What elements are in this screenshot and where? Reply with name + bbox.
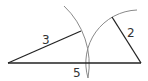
label-3: 3 [42, 33, 50, 47]
triangle-diagram: 3 2 5 [0, 0, 148, 81]
label-2: 2 [127, 26, 135, 40]
segment-2 [112, 17, 141, 63]
label-5: 5 [73, 66, 81, 80]
